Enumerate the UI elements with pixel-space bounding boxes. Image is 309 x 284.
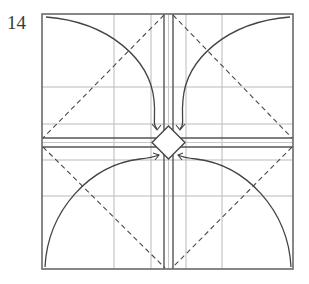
- arrowhead-top-left-icon: [152, 124, 161, 130]
- fold-diagram: [0, 0, 309, 284]
- curve-arrow-bottom-left-icon: [45, 155, 159, 267]
- arrowhead-top-right-icon: [176, 124, 185, 130]
- curve-arrow-top-right-icon: [180, 17, 290, 129]
- curve-arrow-top-left-icon: [46, 17, 157, 129]
- curve-arrow-bottom-right-icon: [178, 155, 291, 267]
